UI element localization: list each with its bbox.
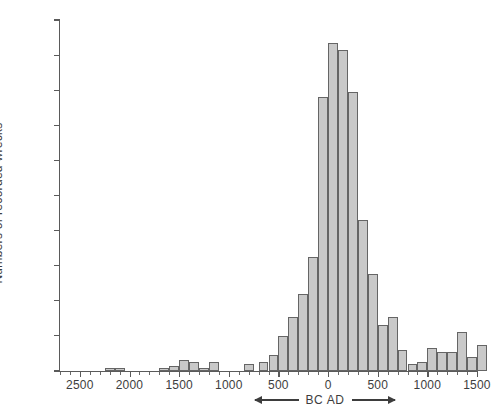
histogram-bar	[199, 368, 209, 372]
x-axis-minor-tick	[249, 372, 250, 375]
x-axis-minor-tick	[120, 372, 121, 375]
histogram-bar	[368, 274, 378, 371]
histogram-bar	[467, 357, 477, 371]
histogram-bar	[269, 355, 279, 371]
x-axis-tick	[179, 372, 180, 377]
histogram-bar	[338, 50, 348, 371]
era-label: BC AD	[303, 393, 348, 407]
x-axis-tick-label: 1000	[414, 378, 442, 392]
x-axis-minor-tick	[70, 372, 71, 375]
histogram-bar	[328, 43, 338, 371]
x-axis-minor-tick	[467, 372, 468, 375]
x-axis-minor-tick	[139, 372, 140, 375]
x-axis-minor-tick	[338, 372, 339, 375]
x-axis-tick-label: 1500	[463, 378, 491, 392]
x-axis-tick	[477, 372, 478, 377]
x-axis-minor-tick	[199, 372, 200, 375]
histogram-bar	[437, 352, 447, 371]
x-axis-minor-tick	[159, 372, 160, 375]
x-axis-minor-tick	[90, 372, 91, 375]
x-axis-tick-label: 500	[268, 378, 289, 392]
x-axis-tick	[278, 372, 279, 377]
histogram-bar	[169, 366, 179, 371]
x-axis-minor-tick	[288, 372, 289, 375]
x-axis-minor-tick	[388, 372, 389, 375]
x-axis-tick-label: 2500	[66, 378, 94, 392]
x-axis-minor-tick	[149, 372, 150, 375]
histogram-bar	[189, 362, 199, 371]
histogram-bar	[447, 352, 457, 371]
x-axis-tick-label: 1000	[215, 378, 243, 392]
histogram-bar	[457, 332, 467, 371]
bar-series	[60, 20, 477, 371]
x-axis-tick-label: 0	[325, 378, 332, 392]
x-axis-tick	[427, 372, 428, 377]
era-annotation: BC AD	[255, 392, 395, 408]
histogram-bar	[408, 364, 418, 371]
x-axis-tick-labels: 2500200015001000500050010001500	[0, 378, 482, 398]
histogram-bar	[318, 97, 328, 371]
x-axis-minor-tick	[209, 372, 210, 375]
histogram-bar	[115, 368, 125, 372]
histogram-bar	[259, 362, 269, 371]
histogram-bar	[105, 368, 115, 372]
histogram-bar	[378, 325, 388, 371]
x-axis-minor-tick	[308, 372, 309, 375]
x-axis-minor-tick	[110, 372, 111, 375]
x-axis-minor-tick	[358, 372, 359, 375]
x-axis-tick	[229, 372, 230, 377]
x-axis-minor-tick	[189, 372, 190, 375]
y-axis-tick-labels: 020406080100120140160180200	[0, 0, 53, 415]
histogram-bar	[388, 317, 398, 371]
x-axis-minor-tick	[318, 372, 319, 375]
x-axis-tick	[80, 372, 81, 377]
x-axis-minor-tick	[398, 372, 399, 375]
x-axis-minor-tick	[437, 372, 438, 375]
histogram-bar	[179, 360, 189, 371]
bc-arrow-icon	[255, 399, 299, 400]
x-axis-tick-label: 2000	[116, 378, 144, 392]
histogram-bar	[159, 368, 169, 372]
x-axis-minor-tick	[457, 372, 458, 375]
x-axis-minor-tick	[368, 372, 369, 375]
x-axis-minor-tick	[408, 372, 409, 375]
x-axis-minor-tick	[269, 372, 270, 375]
x-axis-minor-tick	[348, 372, 349, 375]
x-axis-minor-tick	[417, 372, 418, 375]
x-axis-minor-tick	[239, 372, 240, 375]
histogram-bar	[278, 336, 288, 371]
x-axis-minor-tick	[100, 372, 101, 375]
histogram-bar	[348, 92, 358, 371]
x-axis-minor-tick	[60, 372, 61, 375]
x-axis-minor-tick	[219, 372, 220, 375]
ad-arrow-icon	[352, 399, 396, 400]
x-axis-tick-label: 500	[367, 378, 388, 392]
x-axis-minor-tick	[259, 372, 260, 375]
histogram-bar	[288, 317, 298, 371]
x-axis-tick	[378, 372, 379, 377]
histogram-bar	[427, 348, 437, 371]
x-axis-tick	[328, 372, 329, 377]
x-axis-minor-tick	[298, 372, 299, 375]
histogram-bar	[477, 345, 487, 371]
x-axis-tick-label: 1500	[165, 378, 193, 392]
x-axis-minor-tick	[169, 372, 170, 375]
histogram-bar	[298, 294, 308, 371]
plot-area	[60, 20, 477, 371]
histogram-bar	[244, 364, 254, 371]
histogram-bar	[308, 257, 318, 371]
histogram-bar	[398, 350, 408, 371]
histogram-bar	[358, 220, 368, 371]
x-axis-minor-tick	[447, 372, 448, 375]
histogram-bar	[209, 362, 219, 371]
histogram-bar	[417, 362, 427, 371]
x-axis-tick	[130, 372, 131, 377]
